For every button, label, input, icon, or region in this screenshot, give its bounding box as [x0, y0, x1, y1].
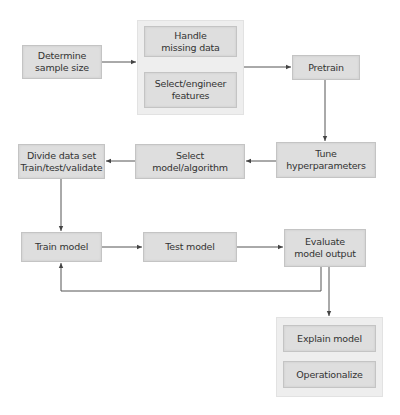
train-model-node: Train model — [21, 232, 102, 262]
test-model-node: Test model — [143, 232, 237, 262]
tune-hyperparameters-node: Tune hyperparameters — [276, 142, 376, 178]
explain-model-node: Explain model — [283, 325, 376, 352]
select-model-algorithm-node: Select model/algorithm — [135, 144, 245, 179]
select-engineer-features-node: Select/engineer features — [144, 72, 237, 108]
operationalize-node: Operationalize — [283, 361, 376, 388]
divide-data-set-node: Divide data set Train/test/validate — [18, 144, 105, 179]
evaluate-model-output-node: Evaluate model output — [284, 229, 366, 267]
handle-missing-data-node: Handle missing data — [144, 26, 237, 57]
determine-sample-size-node: Determine sample size — [22, 45, 102, 79]
ml-workflow-diagram: Determine sample size Handle missing dat… — [0, 0, 400, 415]
pretrain-node: Pretrain — [292, 55, 360, 80]
